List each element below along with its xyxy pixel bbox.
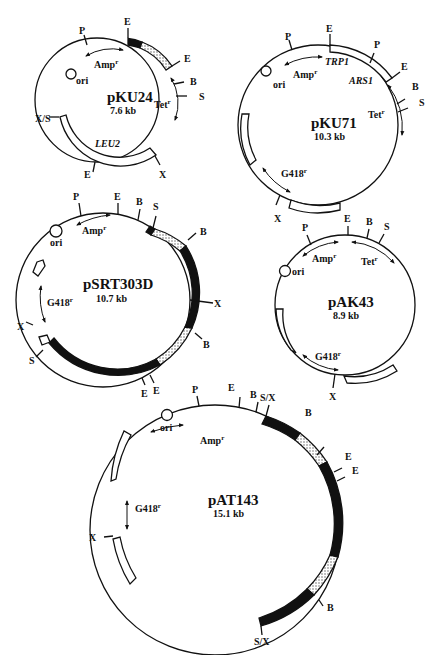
segment: [39, 335, 50, 345]
site-label: S: [384, 221, 390, 232]
ori-circle: [280, 266, 291, 277]
amp-label: Ampr: [82, 224, 106, 236]
g418-label: G418r: [315, 350, 341, 362]
pku24-labels: E E B S X E X/S P Ampr ori pKU24 7.6 kb …: [35, 16, 205, 180]
site-label: E: [84, 169, 91, 180]
site-label: B: [203, 339, 210, 350]
ori-circle: [261, 66, 271, 76]
site-label: B: [305, 407, 312, 418]
insert-stippled: [140, 42, 172, 70]
site-label: S/X: [260, 392, 276, 403]
insert-stippled: [156, 327, 192, 365]
insert-black: [180, 246, 200, 328]
site-label: X: [329, 391, 337, 402]
ori-circle: [66, 69, 76, 79]
insert-stippled: [151, 229, 186, 251]
amp-label: Ampr: [94, 58, 118, 70]
ori-circle: [50, 225, 62, 237]
site-label: E: [141, 388, 148, 399]
plasmid-name: pKU71: [311, 115, 357, 131]
site-label: E: [184, 53, 191, 64]
site-label: B: [327, 602, 334, 613]
site-label: E: [326, 23, 333, 34]
site-label: S: [419, 97, 425, 108]
tet-label: Tetr: [154, 98, 171, 110]
plasmid-size: 8.9 kb: [333, 310, 360, 321]
site-label: E: [345, 451, 352, 462]
site-label: P: [192, 384, 198, 395]
plasmid-size: 10.7 kb: [96, 293, 128, 304]
insert-black: [262, 416, 300, 440]
trp1-label: TRP1: [325, 56, 349, 67]
site-label: X: [89, 532, 97, 543]
site-label: B: [250, 389, 257, 400]
g418-label: G418r: [281, 167, 307, 179]
segment: [241, 114, 256, 165]
site-label: P: [285, 31, 291, 42]
pat143-labels: P E B S/X B E E B S/X X ori Ampr pAT143 …: [89, 382, 359, 647]
site-label: E: [228, 382, 235, 393]
ori-label: ori: [50, 237, 62, 248]
ori-label: ori: [76, 75, 88, 86]
site-label: X: [274, 213, 282, 224]
site-label: S: [29, 355, 35, 366]
leu2-label: LEU2: [94, 138, 120, 149]
plasmid-figure: E E B S X E X/S P Ampr ori pKU24 7.6 kb …: [0, 0, 439, 655]
ori-label: ori: [292, 266, 304, 277]
site-label: P: [79, 25, 85, 36]
ars1-label: ARS1: [348, 75, 373, 86]
plasmid-name: pAT143: [208, 492, 259, 508]
site-label: B: [200, 226, 207, 237]
insert-black: [319, 462, 343, 557]
plasmid-name: pAK43: [328, 294, 374, 310]
plasmid-name: pSRT303D: [83, 276, 153, 292]
segment: [33, 260, 45, 276]
ori-label: ori: [160, 422, 172, 433]
segment: [289, 200, 340, 213]
insert-black: [49, 338, 160, 375]
insert-stippled: [307, 555, 338, 595]
plasmid-size: 7.6 kb: [110, 105, 137, 116]
site-label: S: [199, 91, 205, 102]
site-label: E: [401, 61, 408, 72]
site-label: E: [352, 465, 359, 476]
plasmid-size: 15.1 kb: [213, 508, 245, 519]
ori-circle: [162, 410, 173, 421]
site-label: P: [374, 39, 380, 50]
site-label: B: [136, 196, 143, 207]
site-label: X/S: [35, 113, 51, 124]
tet-label: Tetr: [361, 255, 378, 267]
amp-label: Ampr: [200, 434, 224, 446]
segment: [276, 309, 296, 353]
site-label: E: [344, 213, 351, 224]
insert-black: [259, 589, 314, 626]
site-label: S: [153, 201, 159, 212]
g418-label: G418r: [135, 502, 161, 514]
site-label: S/X: [254, 636, 270, 647]
amp-label: Ampr: [293, 68, 317, 80]
tet-label: Tetr: [368, 108, 385, 120]
site-label: B: [190, 76, 197, 87]
segment: [113, 537, 136, 584]
site-label: B: [366, 216, 373, 227]
site-label: E: [124, 16, 131, 27]
site-label: P: [302, 222, 308, 233]
amp-label: Ampr: [312, 252, 336, 264]
site-label: X: [214, 298, 222, 309]
plasmid-name: pKU24: [107, 89, 153, 105]
site-label: B: [412, 81, 419, 92]
site-label: E: [153, 385, 160, 396]
g418-label: G418r: [47, 296, 73, 308]
site-label: X: [159, 169, 167, 180]
site-label: P: [73, 191, 79, 202]
site-label: X: [17, 321, 25, 332]
ori-label: ori: [273, 79, 285, 90]
site-label: E: [114, 191, 121, 202]
plasmid-size: 10.3 kb: [314, 131, 346, 142]
